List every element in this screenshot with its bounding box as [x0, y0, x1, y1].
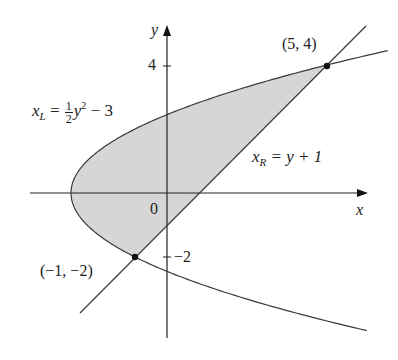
point-label-neg1-neg2: (−1, −2)	[40, 263, 93, 279]
equation-xL: xL = 12y2 − 3	[32, 100, 113, 125]
y-axis-arrow-icon	[163, 25, 171, 36]
y-axis-label: y	[151, 22, 158, 38]
xR-tail: = y + 1	[266, 147, 322, 166]
xR-sub: R	[260, 156, 267, 168]
xL-frac-den: 2	[65, 113, 73, 125]
xR-var: x	[252, 147, 260, 166]
x-axis-label: x	[356, 202, 363, 218]
xL-sub: L	[40, 110, 46, 122]
xL-fraction: 12	[65, 100, 73, 125]
intersection-point-5-4	[324, 63, 330, 69]
point-label-5-4: (5, 4)	[282, 36, 317, 52]
y-tick-label-neg2: −2	[174, 249, 191, 265]
origin-label: 0	[150, 201, 158, 217]
xL-var: x	[32, 101, 40, 120]
xL-equals: =	[46, 101, 64, 120]
xL-pow: 2	[81, 100, 86, 111]
x-axis-arrow-icon	[357, 189, 368, 197]
xL-tail: − 3	[86, 101, 113, 120]
region-between-curves-diagram: y x 0 4 −2 (5, 4) (−1, −2) xL = 12y2 − 3…	[0, 0, 398, 360]
diagram-canvas	[0, 0, 398, 360]
y-tick-label-4: 4	[148, 57, 156, 73]
intersection-point-neg1-neg2	[132, 254, 138, 260]
equation-xR: xR = y + 1	[252, 148, 322, 165]
